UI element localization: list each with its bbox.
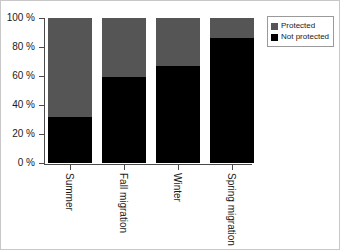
bar[interactable]	[102, 18, 146, 163]
bar-segment-not-protected[interactable]	[102, 77, 146, 163]
x-axis-tick	[232, 165, 233, 170]
y-axis-tick-label: 0 %	[18, 158, 35, 168]
y-axis-tick-label: 80 %	[12, 42, 35, 52]
bar-segment-protected[interactable]	[102, 18, 146, 77]
x-axis-tick	[124, 165, 125, 170]
legend-label: Not protected	[281, 33, 329, 41]
legend: ProtectedNot protected	[267, 16, 334, 47]
y-axis-tick	[39, 76, 44, 77]
legend-item[interactable]: Not protected	[271, 32, 329, 42]
y-axis-tick	[39, 134, 44, 135]
x-axis-category-label: Summer	[64, 173, 74, 211]
bar-segment-not-protected[interactable]	[210, 38, 254, 163]
y-axis-tick-label: 100 %	[7, 13, 35, 23]
y-axis-tick	[39, 47, 44, 48]
bar-segment-protected[interactable]	[210, 18, 254, 38]
legend-label: Protected	[281, 22, 315, 30]
bar-segment-not-protected[interactable]	[156, 66, 200, 163]
legend-swatch-icon	[271, 34, 278, 41]
plot-area	[45, 18, 251, 163]
legend-item[interactable]: Protected	[271, 21, 329, 31]
x-axis-tick	[178, 165, 179, 170]
y-axis-tick-label: 60 %	[12, 71, 35, 81]
x-axis-tick	[70, 165, 71, 170]
x-axis-category-label: Fall migration	[118, 173, 128, 233]
bar[interactable]	[210, 18, 254, 163]
legend-swatch-icon	[271, 23, 278, 30]
bar-segment-protected[interactable]	[156, 18, 200, 66]
y-axis-tick	[39, 18, 44, 19]
bar[interactable]	[156, 18, 200, 163]
y-axis-tick	[39, 105, 44, 106]
bar-segment-not-protected[interactable]	[48, 117, 92, 163]
x-axis-category-label: Spring migration	[226, 173, 236, 246]
bar[interactable]	[48, 18, 92, 163]
x-axis-category-label: Winter	[172, 173, 182, 202]
chart-screenshot: 0 %20 %40 %60 %80 %100 % SummerFall migr…	[0, 0, 340, 250]
y-axis-tick-label: 20 %	[12, 129, 35, 139]
x-axis-line	[44, 164, 252, 165]
bar-segment-protected[interactable]	[48, 18, 92, 117]
y-axis-tick-label: 40 %	[12, 100, 35, 110]
